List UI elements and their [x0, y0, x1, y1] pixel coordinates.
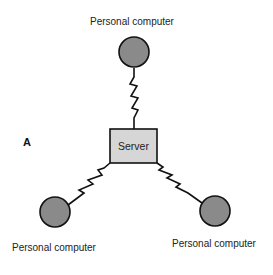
panel-label: A [23, 136, 31, 148]
pc-top-icon [119, 37, 149, 67]
pc-right-label: Personal computer [172, 238, 256, 249]
link-right-server [157, 163, 202, 203]
pc-top-label: Personal computer [90, 16, 174, 27]
pc-left-icon [40, 197, 70, 227]
server-label: Server [110, 140, 157, 152]
network-diagram [0, 0, 273, 275]
pc-left-label: Personal computer [12, 242, 96, 253]
link-left-server [68, 163, 110, 205]
pc-right-icon [200, 196, 230, 226]
link-top-server [130, 68, 138, 129]
